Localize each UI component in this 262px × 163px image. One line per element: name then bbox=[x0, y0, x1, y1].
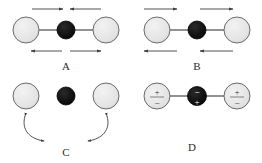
figure-background bbox=[0, 0, 262, 163]
panel-a-label: A bbox=[62, 60, 70, 72]
panel-d-left-atom-plus-sign: + bbox=[154, 87, 159, 97]
panel-c-left-light-atom bbox=[13, 83, 39, 109]
panel-d-label: D bbox=[188, 141, 196, 153]
panel-a-left-light-atom bbox=[13, 17, 39, 43]
panel-d-center-atom-plus-sign: + bbox=[194, 97, 199, 107]
panel-b-left-light-atom bbox=[144, 17, 170, 43]
panel-b-center-dark-atom bbox=[188, 21, 206, 39]
panel-d-right-atom-plus-sign: + bbox=[234, 87, 239, 97]
panel-a-center-dark-atom bbox=[57, 21, 75, 39]
panel-c-center-dark-atom bbox=[57, 87, 75, 105]
panel-c-label: C bbox=[62, 146, 69, 158]
panel-a-right-light-atom bbox=[93, 17, 119, 43]
panel-d-left-atom-minus-sign: − bbox=[154, 98, 159, 108]
panel-b-right-light-atom bbox=[224, 17, 250, 43]
panel-b-label: B bbox=[193, 60, 200, 72]
panel-c-right-light-atom bbox=[93, 83, 119, 109]
panel-d-right-atom-minus-sign: − bbox=[234, 98, 239, 108]
vibrational-modes-figure: A B C + − + − − + D bbox=[0, 0, 262, 163]
panel-d-center-atom-minus-sign: − bbox=[194, 87, 199, 97]
